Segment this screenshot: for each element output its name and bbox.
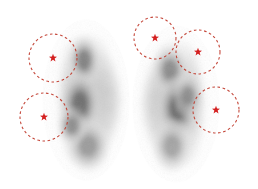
scan-canvas [0, 0, 258, 189]
figure-background [0, 0, 258, 189]
scan-figure [0, 0, 258, 189]
